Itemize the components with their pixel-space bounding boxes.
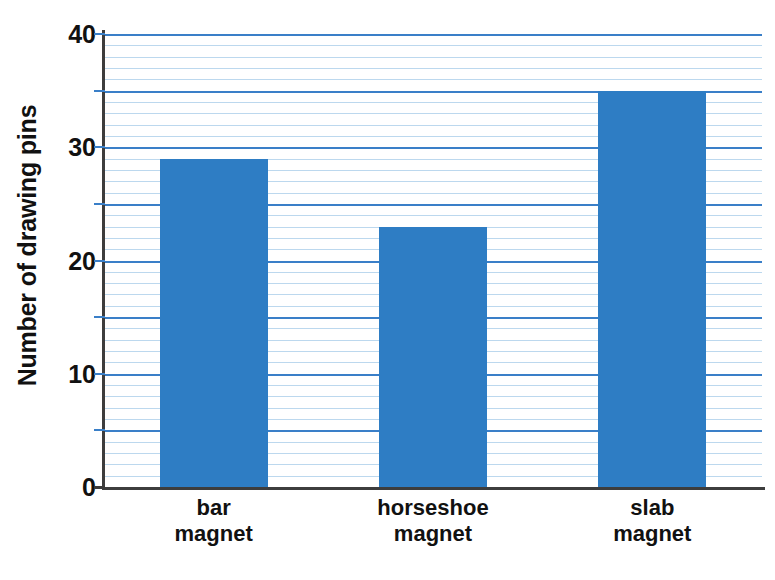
y-axis-tick-label: 40 [52,22,96,47]
y-axis-tick-label: 30 [52,135,96,160]
y-axis-tickmark [94,203,105,205]
y-axis-tickmark [94,33,105,35]
y-axis-tick-labels: 010203040 [52,0,96,580]
y-axis-title-text: Number of drawing pins [14,104,43,386]
x-axis-category-label: horseshoemagnet [323,495,542,547]
y-axis-tickmark [94,90,105,92]
y-axis-tick-label: 20 [52,248,96,273]
y-axis-tickmark [94,146,105,148]
x-axis-category-label: slabmagnet [543,495,762,547]
x-axis-category-label-line: bar [197,495,231,520]
y-axis-tickmark [94,429,105,431]
y-axis-tickmark [94,373,105,375]
y-axis-title: Number of drawing pins [0,0,56,490]
gridline-minor [104,68,762,69]
x-axis-category-label-line: magnet [543,521,762,547]
y-axis-tickmark [94,316,105,318]
x-axis-category-labels: barmagnethorseshoemagnetslabmagnet [104,495,762,575]
x-axis-category-label-line: slab [630,495,674,520]
x-axis-line [102,487,765,490]
gridline-major [104,34,762,36]
x-axis-category-label: barmagnet [104,495,323,547]
gridline-minor [104,57,762,58]
y-axis-tick-label: 0 [52,475,96,500]
bar [160,159,268,487]
bar [379,227,487,487]
y-axis-tickmark [94,260,105,262]
y-axis-tickmark [94,486,105,489]
gridline-minor [104,79,762,80]
y-axis-tick-label: 10 [52,361,96,386]
plot-area [104,34,762,487]
gridline-minor [104,45,762,46]
x-axis-category-label-line: horseshoe [377,495,488,520]
x-axis-category-label-line: magnet [323,521,542,547]
x-axis-category-label-line: magnet [104,521,323,547]
bar-chart: Number of drawing pins 010203040 barmagn… [0,0,775,580]
bar [598,91,706,487]
